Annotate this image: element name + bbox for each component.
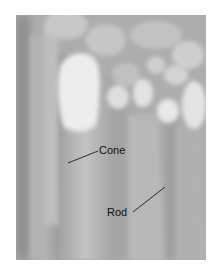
cone-label: Cone: [99, 145, 125, 156]
photoreceptor-texture: [16, 15, 206, 260]
rod-label: Rod: [107, 207, 127, 218]
sem-micrograph-photo: [16, 15, 206, 260]
